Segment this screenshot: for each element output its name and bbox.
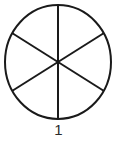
circle-sector-diagram <box>0 0 117 124</box>
figure-caption-label: 1 <box>0 121 117 139</box>
figure-container: 1 <box>0 0 117 142</box>
